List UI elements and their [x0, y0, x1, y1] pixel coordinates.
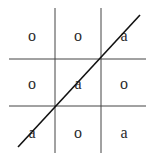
winning-strike-line [0, 0, 152, 160]
diagonal-strike [18, 15, 140, 147]
tic-tac-toe-board: o o a o a o a o a [0, 0, 152, 160]
